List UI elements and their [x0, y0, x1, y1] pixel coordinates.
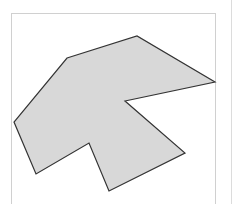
concave-polygon-shape: [14, 36, 215, 191]
canvas: [0, 0, 235, 204]
polygon-diagram: [0, 0, 235, 204]
